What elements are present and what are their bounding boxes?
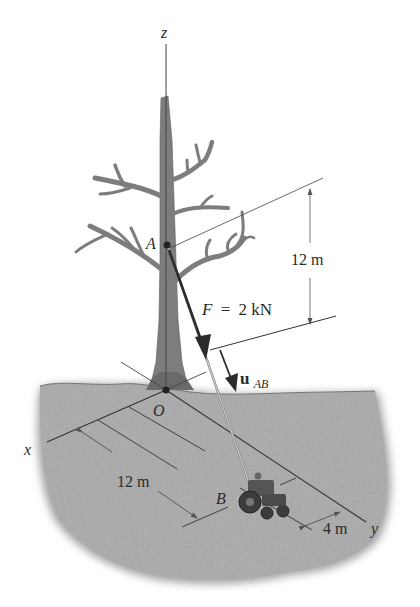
tree-branch <box>76 234 108 252</box>
unit-vector-label: u AB <box>240 369 269 391</box>
point-a-marker <box>164 242 171 249</box>
dim-height-label: 12 m <box>291 251 324 268</box>
dim-y-label: 4 m <box>323 520 348 537</box>
tractor-front-wheel-1 <box>261 507 273 519</box>
tractor-driver <box>255 473 262 480</box>
unit-vector-subscript: AB <box>253 377 269 391</box>
point-b-label: B <box>216 490 226 507</box>
tree-branch <box>172 142 212 180</box>
tree-branch <box>244 237 254 240</box>
force-value: 2 kN <box>238 300 272 319</box>
dim-height-bottom-guide <box>210 316 336 350</box>
tractor-front-wheel-2 <box>277 505 289 517</box>
y-axis-label: y <box>369 520 379 538</box>
force-equals: = <box>221 300 231 319</box>
dim-x-label: 12 m <box>117 473 150 490</box>
unit-vector-symbol: u <box>240 369 249 388</box>
tree-branch <box>196 145 200 162</box>
point-o-marker <box>163 387 170 394</box>
diagram-stage: z x y O A B F = 2 kN u AB 12 m 12 m 4 m <box>0 0 420 607</box>
origin-label: O <box>153 402 165 419</box>
x-axis-label: x <box>23 441 31 458</box>
tree-branch <box>100 188 130 194</box>
tree-branch <box>187 160 188 172</box>
ground <box>38 383 391 583</box>
point-a-label: A <box>145 235 156 252</box>
force-label: F = 2 kN <box>201 300 272 319</box>
z-axis-label: z <box>160 24 168 41</box>
diagram-canvas: z x y O A B F = 2 kN u AB 12 m 12 m 4 m <box>0 0 420 607</box>
unit-vector-arrow <box>220 350 238 392</box>
force-symbol: F <box>201 300 213 319</box>
tree-branch <box>176 238 244 280</box>
